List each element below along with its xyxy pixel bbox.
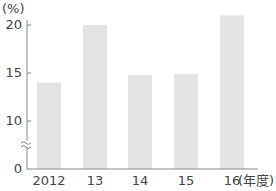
y-tick-0: 0 bbox=[0, 162, 22, 175]
bar-chart: (%) 20 15 10 0 2012 13 14 15 16 (年度) bbox=[0, 0, 276, 191]
bar-2012 bbox=[37, 83, 61, 169]
x-tick-14: 14 bbox=[118, 174, 162, 187]
y-unit-label: (%) bbox=[2, 2, 25, 15]
chart-canvas bbox=[0, 0, 276, 191]
x-tick-2012: 2012 bbox=[27, 174, 71, 187]
y-tick-20: 20 bbox=[0, 18, 22, 31]
bar-13 bbox=[83, 25, 107, 169]
x-tick-13: 13 bbox=[73, 174, 117, 187]
y-tick-15: 15 bbox=[0, 66, 22, 79]
x-unit-label: (年度) bbox=[238, 174, 274, 187]
bar-15 bbox=[174, 74, 198, 169]
x-tick-15: 15 bbox=[164, 174, 208, 187]
bar-14 bbox=[128, 75, 152, 169]
y-tick-10: 10 bbox=[0, 114, 22, 127]
bar-16 bbox=[220, 15, 244, 169]
